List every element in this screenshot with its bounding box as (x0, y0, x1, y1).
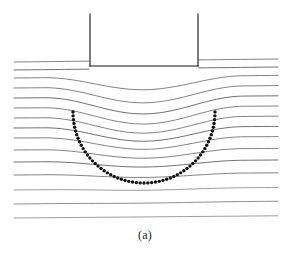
soil-displacement-diagram (0, 0, 290, 260)
slip-surface-dot (161, 179, 164, 182)
slip-surface-dot (188, 164, 191, 167)
ground-line (199, 67, 278, 68)
ground-line (14, 69, 89, 70)
slip-surface-dot (185, 167, 188, 170)
ground-line (14, 173, 278, 178)
slip-surface-dot (191, 162, 194, 165)
slip-surface-dot (135, 181, 138, 184)
ground-line (14, 201, 278, 204)
slip-surface-dot (172, 175, 175, 178)
slip-surface-dot (158, 180, 161, 183)
figure-caption: (a) (0, 228, 290, 243)
slip-surface-dot (213, 118, 216, 121)
slip-surface-dot (182, 169, 185, 172)
slip-surface-dot (106, 171, 109, 174)
ground-line (14, 96, 278, 114)
slip-surface-dot (116, 176, 119, 179)
slip-surface-dot (71, 110, 74, 113)
slip-surface-dot (213, 114, 216, 117)
figure-container: (a) (0, 0, 290, 260)
slip-surface-dot (76, 137, 79, 140)
slip-surface-dot (75, 133, 78, 136)
slip-surface-dot (211, 129, 214, 132)
slip-surface-dot (212, 126, 215, 129)
ground-line (199, 59, 278, 60)
slip-surface-dot (165, 178, 168, 181)
slip-surface-dot (91, 159, 94, 162)
ground-line (14, 126, 278, 141)
slip-surface-dot (208, 137, 211, 140)
slip-surface-dot (73, 126, 76, 129)
slip-surface-dot (80, 144, 83, 147)
slip-surface-dot (131, 180, 134, 183)
slip-surface-dot (179, 171, 182, 174)
ground-line (14, 187, 278, 190)
ground-line (14, 75, 278, 89)
slip-surface-dot (123, 179, 126, 182)
ground-line (14, 116, 278, 133)
slip-surface-dot (176, 173, 179, 176)
slip-surface-dot (201, 150, 204, 153)
ground-line (14, 86, 278, 103)
slip-surface-dot (72, 118, 75, 121)
slip-surface-dot (138, 181, 141, 184)
slip-surface-dot (203, 147, 206, 150)
slip-surface-dot (81, 147, 84, 150)
ground-line (14, 61, 89, 62)
slip-surface-dot (86, 153, 89, 156)
slip-surface-dot (213, 110, 216, 113)
slip-surface-dot (112, 175, 115, 178)
slip-surface-dot (84, 150, 87, 153)
slip-surface-dot (102, 169, 105, 172)
slip-surface-dot (199, 153, 202, 156)
slip-surface-dot (72, 122, 75, 125)
strip-footing (90, 14, 198, 66)
ground-line (14, 106, 278, 124)
slip-surface-dot (93, 162, 96, 165)
ground-line (14, 216, 278, 218)
dotted-slip-surface (71, 110, 216, 184)
slip-surface-dot (127, 180, 130, 183)
slip-surface-dot (120, 178, 123, 181)
ground-line (14, 137, 278, 150)
slip-surface-dot (99, 167, 102, 170)
slip-surface-dot (150, 181, 153, 184)
slip-surface-dot (88, 156, 91, 159)
slip-surface-dot (169, 176, 172, 179)
slip-surface-dot (212, 122, 215, 125)
slip-surface-dot (154, 180, 157, 183)
slip-surface-dot (71, 114, 74, 117)
ground-line (14, 148, 278, 158)
slip-surface-dot (210, 133, 213, 136)
slip-surface-dot (196, 156, 199, 159)
slip-surface-dot (78, 140, 81, 143)
ground-line (14, 160, 278, 167)
slip-surface-dot (205, 144, 208, 147)
ground-line-group (14, 59, 278, 218)
slip-surface-dot (146, 181, 149, 184)
slip-surface-dot (96, 164, 99, 167)
slip-surface-dot (142, 181, 145, 184)
slip-surface-dot (207, 140, 210, 143)
slip-surface-dot (194, 159, 197, 162)
slip-surface-dot (74, 129, 77, 132)
slip-surface-dot (109, 173, 112, 176)
